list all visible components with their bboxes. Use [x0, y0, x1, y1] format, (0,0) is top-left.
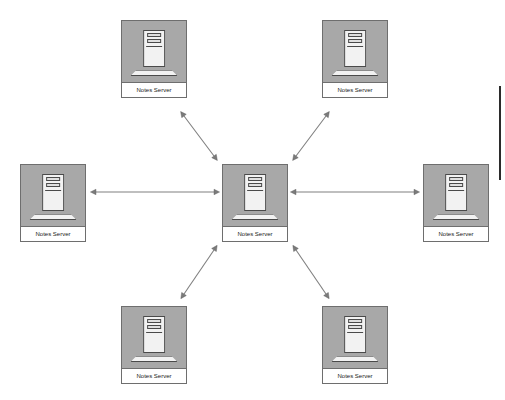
node-label: Notes Server: [122, 82, 186, 97]
server-base-icon: [331, 70, 378, 75]
server-drive-bay-icon: [348, 319, 363, 323]
server-tower-icon: [244, 174, 266, 212]
node-spoke-left[interactable]: Notes Server: [20, 164, 86, 242]
server-panel-divider: [448, 190, 465, 191]
server-panel-divider: [247, 190, 264, 191]
node-label: Notes Server: [21, 226, 85, 241]
node-label: Notes Server: [223, 226, 287, 241]
server-drive-bay-icon: [46, 177, 61, 181]
server-drive-bay-icon: [449, 183, 464, 187]
node-spoke-bottom-left[interactable]: Notes Server: [121, 306, 187, 384]
server-tower-icon: [143, 30, 165, 68]
server-panel-divider: [146, 46, 163, 47]
server-base-icon: [331, 356, 378, 361]
server-icon: [122, 21, 186, 82]
node-label: Notes Server: [323, 368, 387, 383]
server-icon: [122, 307, 186, 368]
conn-hub-bottom-right: [296, 250, 326, 294]
server-base-icon: [130, 70, 177, 75]
server-drive-bay-icon: [147, 33, 162, 37]
conn-hub-bottom-left: [184, 250, 214, 294]
server-drive-bay-icon: [248, 177, 263, 181]
server-tower-icon: [344, 30, 366, 68]
server-panel-divider: [347, 46, 364, 47]
server-base-icon: [432, 214, 479, 219]
server-tower-icon: [445, 174, 467, 212]
server-base-icon: [130, 356, 177, 361]
node-spoke-top-left[interactable]: Notes Server: [121, 20, 187, 98]
server-drive-bay-icon: [348, 325, 363, 329]
server-drive-bay-icon: [147, 319, 162, 323]
server-icon: [223, 165, 287, 226]
conn-hub-top-left: [184, 116, 214, 156]
server-drive-bay-icon: [147, 39, 162, 43]
server-drive-bay-icon: [348, 33, 363, 37]
server-panel-divider: [45, 190, 62, 191]
server-drive-bay-icon: [147, 325, 162, 329]
server-icon: [323, 307, 387, 368]
diagram-canvas: Notes ServerNotes ServerNotes ServerNote…: [0, 0, 505, 400]
server-drive-bay-icon: [449, 177, 464, 181]
server-panel-divider: [146, 332, 163, 333]
node-spoke-top-right[interactable]: Notes Server: [322, 20, 388, 98]
node-spoke-bottom-right[interactable]: Notes Server: [322, 306, 388, 384]
server-panel-divider: [347, 332, 364, 333]
conn-hub-top-right: [296, 116, 326, 156]
node-label: Notes Server: [323, 82, 387, 97]
server-drive-bay-icon: [248, 183, 263, 187]
server-icon: [323, 21, 387, 82]
node-hub[interactable]: Notes Server: [222, 164, 288, 242]
server-drive-bay-icon: [348, 39, 363, 43]
server-tower-icon: [42, 174, 64, 212]
server-drive-bay-icon: [46, 183, 61, 187]
node-label: Notes Server: [122, 368, 186, 383]
server-tower-icon: [344, 316, 366, 354]
server-icon: [424, 165, 488, 226]
server-base-icon: [231, 214, 278, 219]
server-icon: [21, 165, 85, 226]
right-margin-rule: [499, 86, 501, 180]
node-spoke-right[interactable]: Notes Server: [423, 164, 489, 242]
server-base-icon: [29, 214, 76, 219]
node-label: Notes Server: [424, 226, 488, 241]
server-tower-icon: [143, 316, 165, 354]
